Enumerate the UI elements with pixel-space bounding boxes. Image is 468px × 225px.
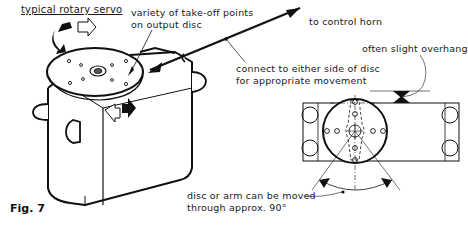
angle-arrows-icon	[319, 178, 392, 194]
pushrod-arrow-icon	[140, 8, 300, 73]
connect-callout-line	[226, 39, 245, 62]
overhang-marker-icon	[370, 91, 430, 103]
